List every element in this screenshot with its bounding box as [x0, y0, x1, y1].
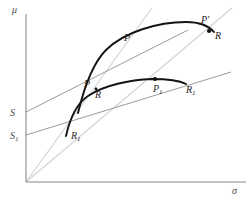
figure-canvas: μ σ S S1 P P′ R P R P1 R1 R1 [0, 0, 252, 204]
label-R1-left-sub: 1 [77, 135, 81, 143]
label-P-lower: P [84, 79, 90, 89]
label-R1-right-sub: 1 [192, 89, 196, 97]
label-P1: P1 [153, 84, 163, 94]
label-P1-sub: 1 [159, 88, 163, 96]
label-R-lower: R [95, 90, 101, 100]
p-prime-point-dot [207, 29, 211, 33]
intercept-label-S1: S1 [10, 131, 19, 141]
label-R1-left: R1 [71, 131, 81, 141]
label-P-upper: P [124, 33, 130, 43]
x-axis-label: σ [232, 186, 237, 196]
y-axis-label: μ [12, 5, 17, 15]
tangent-line-from-S [26, 30, 188, 112]
label-P-prime: P′ [201, 15, 209, 25]
p1-point-dot [153, 77, 157, 81]
intercept-label-S: S [10, 108, 15, 118]
intercept-label-S1-sub: 1 [15, 135, 19, 143]
label-R-upper: R [215, 31, 221, 41]
label-R1-right: R1 [186, 85, 196, 95]
label-P-prime-mark: ′ [207, 14, 209, 25]
